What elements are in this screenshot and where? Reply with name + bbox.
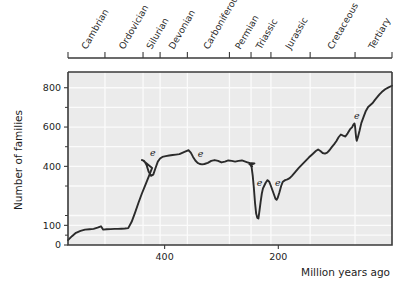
y-axis: 0100400600800 bbox=[43, 82, 68, 250]
diversity-chart-figure: 0100400600800 400200 CambrianOrdovicianS… bbox=[0, 0, 420, 288]
y-tick-label: 600 bbox=[43, 121, 61, 132]
late-devonian-extinction: e bbox=[198, 148, 204, 159]
chart-svg: 0100400600800 400200 CambrianOrdovicianS… bbox=[0, 0, 420, 288]
end-cretaceous-extinction: e bbox=[354, 110, 360, 121]
end-triassic-extinction: e bbox=[275, 177, 281, 188]
x-axis-title: Million years ago bbox=[301, 266, 390, 278]
y-axis-title: Number of families bbox=[12, 110, 24, 210]
end-ordovician-extinction: e bbox=[150, 147, 156, 158]
period-axis: CambrianOrdovicianSilurianDevonianCarbon… bbox=[68, 0, 393, 58]
period-label: Jurassic bbox=[282, 15, 310, 52]
period-label: Cretaceous bbox=[325, 0, 361, 51]
y-tick-label: 800 bbox=[43, 82, 61, 93]
end-permian-extinction: e bbox=[257, 177, 263, 188]
period-label: Tertiary bbox=[365, 15, 393, 52]
period-label: Cambrian bbox=[79, 7, 111, 51]
y-tick-label: 0 bbox=[55, 239, 61, 250]
y-tick-label: 400 bbox=[43, 161, 61, 172]
x-tick-label: 400 bbox=[156, 251, 174, 262]
y-tick-label: 100 bbox=[43, 220, 61, 231]
period-label: Devonian bbox=[166, 8, 197, 51]
x-tick-label: 200 bbox=[269, 251, 287, 262]
x-axis: 400200 bbox=[156, 245, 288, 262]
